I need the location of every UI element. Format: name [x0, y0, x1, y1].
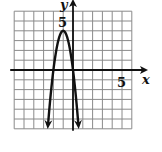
x-tick-label-5: 5: [117, 75, 126, 90]
x-axis-label: x: [141, 72, 150, 87]
coordinate-graph: x y 5 5: [0, 0, 162, 152]
y-axis-label: y: [59, 0, 69, 12]
y-tick-label-5: 5: [58, 15, 67, 30]
